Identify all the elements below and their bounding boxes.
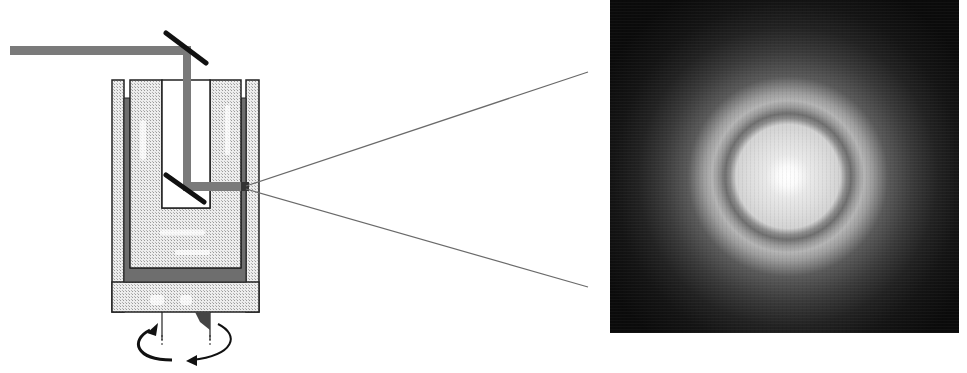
rotation-shaft [162,312,210,345]
caption-left [0,366,600,373]
upper-ray [246,72,588,186]
scattering-pattern-photo [610,0,959,333]
figure [0,0,967,373]
rotation-arrow-icon [138,323,230,366]
lower-ray [246,189,588,287]
caption-right [610,366,967,373]
